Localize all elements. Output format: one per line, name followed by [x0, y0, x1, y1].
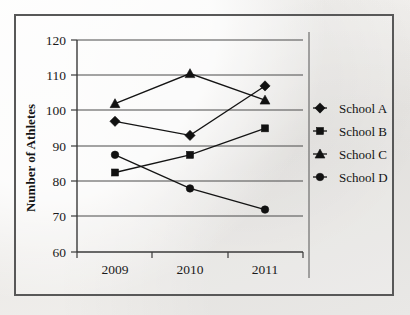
square-marker-icon: [317, 128, 324, 135]
data-point-2011: [261, 206, 269, 214]
y-axis-title: Number of Athletes: [23, 104, 38, 212]
y-axis-title-text: Number of Athletes: [23, 104, 38, 212]
legend-item-school-c[interactable]: School C: [313, 147, 387, 162]
y-tick-label-70: 70: [53, 209, 67, 224]
legend-entries: School ASchool BSchool CSchool D: [313, 101, 388, 185]
x-tick-labels: 2009 2010 2011: [102, 262, 279, 277]
x-tick-label-2010: 2010: [177, 262, 204, 277]
data-point-2009: [112, 169, 119, 176]
series-line: [115, 86, 265, 135]
diamond-marker-icon: [315, 103, 325, 113]
y-tick-label-120: 120: [46, 33, 67, 48]
series-school-a: [110, 81, 270, 141]
data-point-2010: [186, 185, 194, 193]
legend-label: School D: [339, 170, 388, 185]
x-tick-label-2011: 2011: [252, 262, 279, 277]
series-line: [115, 155, 265, 210]
data-point-2010: [185, 130, 195, 140]
y-tick-label-60: 60: [53, 245, 67, 260]
series-line: [115, 74, 265, 104]
data-point-2009: [110, 99, 120, 108]
y-tick-label-100: 100: [46, 103, 67, 118]
legend-item-school-a[interactable]: School A: [313, 101, 388, 116]
y-tick-label-110: 110: [46, 68, 66, 83]
y-tick-labels: 120 110 100 90 80 70 60: [46, 33, 67, 260]
chart-figure-frame: Number of Athletes: [14, 14, 394, 296]
legend-label: School C: [339, 147, 387, 162]
data-point-2011: [262, 125, 269, 132]
y-tick-label-90: 90: [53, 139, 67, 154]
line-chart: Number of Athletes: [16, 16, 392, 294]
data-point-2010: [185, 69, 195, 78]
legend: School ASchool BSchool CSchool D: [309, 32, 388, 278]
legend-item-school-b[interactable]: School B: [313, 124, 387, 139]
data-point-2011: [260, 95, 270, 104]
legend-item-school-d[interactable]: School D: [313, 170, 388, 185]
series-school-c: [110, 69, 270, 108]
y-tick-label-80: 80: [53, 174, 67, 189]
data-point-2011: [260, 81, 270, 91]
series-layer: [110, 69, 270, 214]
chart-canvas: Number of Athletes: [16, 16, 392, 294]
x-tick-label-2009: 2009: [102, 262, 129, 277]
axes-group: [71, 40, 303, 258]
legend-label: School B: [339, 124, 387, 139]
series-school-d: [111, 151, 269, 213]
data-point-2009: [111, 151, 119, 159]
circle-marker-icon: [316, 173, 324, 181]
data-point-2010: [187, 151, 194, 158]
legend-label: School A: [339, 101, 388, 116]
data-point-2009: [110, 116, 120, 126]
